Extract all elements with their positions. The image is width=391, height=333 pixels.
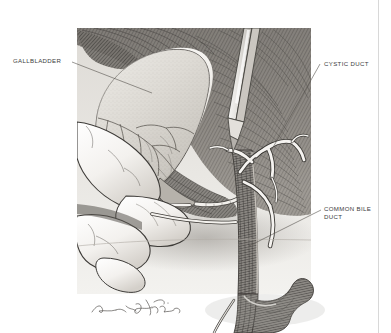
label-common-bile-duct: COMMON BILE DUCT <box>324 205 371 221</box>
medical-illustration-figure: GALLBLADDER CYSTIC DUCT COMMON BILE DUCT <box>0 0 391 333</box>
illustration-panel <box>75 28 320 294</box>
page-right-rule <box>378 0 379 333</box>
label-gallbladder: GALLBLADDER <box>13 57 61 65</box>
illustration-canvas <box>0 0 391 333</box>
label-cystic-duct: CYSTIC DUCT <box>324 60 369 68</box>
